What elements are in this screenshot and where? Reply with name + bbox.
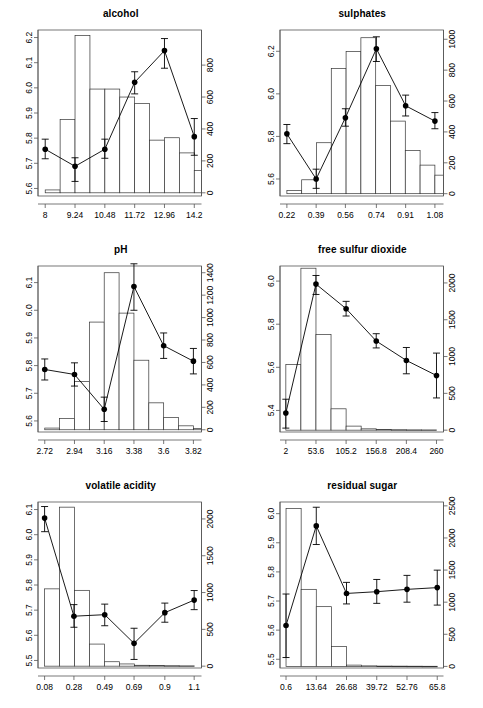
data-point: [342, 115, 348, 121]
data-point: [42, 367, 48, 373]
right-axis-tick-label: 2000: [446, 528, 456, 547]
chart-canvas: 5.65.75.85.96.06.16.2020040060080089.241…: [0, 0, 242, 236]
right-axis: 0500100015002000: [443, 266, 456, 433]
x-axis-tick-label: 0.49: [96, 682, 113, 692]
left-axis-tick-label: 5.8: [266, 318, 276, 330]
left-axis-tick-label: 5.9: [24, 107, 34, 119]
left-axis-tick-label: 5.5: [24, 654, 34, 666]
left-axis-tick-label: 5.8: [266, 130, 276, 142]
right-axis-tick-label: 1500: [446, 310, 456, 329]
left-axis-tick-label: 6.0: [24, 304, 34, 316]
right-axis: 05001000150020002500: [443, 496, 456, 669]
data-point: [161, 343, 167, 349]
x-axis-tick-label: 13.64: [305, 682, 327, 692]
data-point: [102, 612, 108, 618]
left-axis-tick-label: 5.8: [266, 566, 276, 578]
right-axis-tick-label: 800: [446, 63, 456, 77]
left-axis-tick-label: 5.7: [266, 595, 276, 607]
histogram-bars: [45, 273, 202, 430]
x-axis-tick-label: 0.74: [368, 210, 385, 220]
chart-title: residual sugar: [242, 480, 483, 491]
left-axis-tick-label: 5.6: [24, 629, 34, 641]
x-axis-tick-label: 1.08: [426, 210, 443, 220]
left-axis-tick-label: 5.9: [24, 332, 34, 344]
right-axis-tick-label: 2500: [446, 496, 456, 515]
left-axis: 5.65.75.85.96.06.16.2: [24, 30, 38, 196]
x-axis: 0.080.280.490.690.91.1: [36, 676, 201, 692]
data-point: [162, 48, 168, 54]
right-axis-tick-label: 500: [205, 622, 215, 636]
data-point: [373, 338, 379, 344]
chart-panel-residual-sugar: residual sugar5.55.65.75.85.96.005001000…: [242, 472, 483, 708]
data-point: [131, 641, 137, 647]
data-point: [404, 587, 410, 593]
x-axis: 0.613.6426.6839.7252.7665.8: [280, 676, 446, 692]
right-axis-tick-label: 400: [205, 122, 215, 136]
right-axis-tick-label: 500: [446, 627, 456, 641]
right-axis-tick-label: 0: [446, 664, 456, 669]
data-point: [101, 407, 107, 413]
right-axis-tick-label: 1500: [205, 546, 215, 565]
x-axis-tick-label: 1.1: [188, 682, 200, 692]
left-axis-tick-label: 5.9: [24, 554, 34, 566]
x-axis-tick-label: 2.72: [36, 446, 53, 456]
x-axis-tick-label: 3.38: [126, 446, 143, 456]
left-axis-tick-label: 5.7: [24, 387, 34, 399]
right-axis-tick-label: 1000: [205, 583, 215, 602]
data-point: [72, 372, 78, 378]
right-axis-tick-label: 0: [446, 428, 456, 433]
x-axis-tick-label: 2: [283, 446, 288, 456]
right-axis-tick-label: 0: [205, 190, 215, 195]
x-axis-tick-label: 260: [429, 446, 443, 456]
data-point: [283, 623, 289, 629]
chart-canvas: 5.45.65.86.00500100015002000253.6105.215…: [242, 236, 483, 472]
x-axis-tick-label: 3.82: [185, 446, 202, 456]
right-axis-tick-label: 0: [446, 191, 456, 196]
data-point: [313, 523, 319, 529]
left-axis-tick-label: 5.7: [24, 604, 34, 616]
x-axis-tick-label: 0.28: [66, 682, 83, 692]
x-axis-tick-label: 14.2: [186, 210, 203, 220]
left-axis-tick-label: 6.0: [266, 275, 276, 287]
x-axis-tick-label: 26.68: [335, 682, 357, 692]
x-axis-tick-label: 10.48: [94, 210, 116, 220]
x-axis: 0.220.390.560.740.911.08: [278, 204, 443, 220]
histogram-bars: [285, 268, 436, 430]
x-axis-tick-label: 11.72: [124, 210, 145, 220]
data-point: [42, 146, 48, 152]
data-point: [191, 358, 197, 364]
right-axis-tick-label: 200: [205, 154, 215, 168]
data-point: [313, 176, 319, 182]
left-axis-tick-label: 6.2: [266, 45, 276, 57]
plot-grid: alcohol5.65.75.85.96.06.16.2020040060080…: [0, 0, 483, 708]
left-axis-tick-label: 6.0: [24, 82, 34, 94]
x-axis-tick-label: 0.08: [36, 682, 53, 692]
left-axis-tick-label: 6.1: [24, 503, 34, 515]
x-axis-tick-label: 0.69: [126, 682, 143, 692]
chart-title: pH: [0, 244, 242, 255]
right-axis-tick-label: 1200: [205, 285, 215, 304]
x-axis-tick-label: 52.76: [396, 682, 418, 692]
chart-panel-pH: pH5.65.75.85.96.06.102004006008001000120…: [0, 236, 242, 472]
x-axis-tick-label: 105.2: [335, 446, 357, 456]
left-axis: 5.65.75.85.96.06.1: [24, 266, 38, 432]
x-axis-tick-label: 12.96: [154, 210, 176, 220]
data-point: [373, 46, 379, 52]
data-point: [191, 597, 197, 603]
data-point: [343, 306, 349, 312]
chart-panel-alcohol: alcohol5.65.75.85.96.06.16.2020040060080…: [0, 0, 242, 236]
data-point: [72, 164, 78, 170]
left-axis: 5.65.86.06.2: [266, 30, 280, 196]
data-point: [403, 358, 409, 364]
left-axis-tick-label: 6.1: [24, 276, 34, 288]
left-axis: 5.45.65.86.0: [266, 266, 280, 432]
right-axis-tick-label: 0: [205, 664, 215, 669]
chart-title: alcohol: [0, 8, 242, 19]
chart-canvas: 5.65.75.85.96.06.10200400600800100012001…: [0, 236, 242, 472]
right-axis-tick-label: 2000: [446, 273, 456, 292]
left-axis-tick-label: 5.4: [266, 404, 276, 416]
data-point: [132, 80, 138, 86]
chart-canvas: 5.55.65.75.85.96.06.105001000150020000.0…: [0, 472, 242, 708]
left-axis-tick-label: 6.0: [266, 507, 276, 519]
x-axis-tick-label: 0.6: [280, 682, 292, 692]
